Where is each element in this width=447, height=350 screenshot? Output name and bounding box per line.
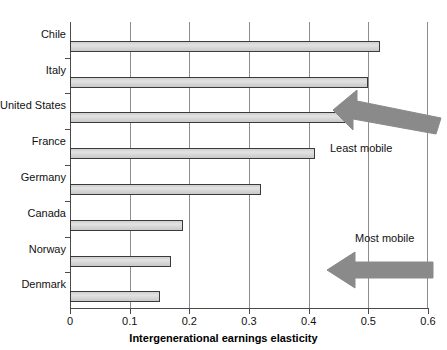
gridline-0.4 <box>309 22 310 308</box>
category-label-italy: Italy <box>0 64 66 76</box>
bar-france <box>70 148 315 159</box>
y-axis-tick <box>65 237 70 238</box>
bar-chile <box>70 41 380 52</box>
bar-norway <box>70 256 171 267</box>
y-axis-tick <box>65 165 70 166</box>
most-mobile-label: Most mobile <box>355 232 414 244</box>
x-axis-tick-label-0.2: 0.2 <box>182 315 197 327</box>
category-label-denmark: Denmark <box>0 278 66 290</box>
x-axis-tick-label-0: 0 <box>67 315 73 327</box>
x-axis-tick-label-0.6: 0.6 <box>420 315 435 327</box>
x-axis-tick-label-0.3: 0.3 <box>241 315 256 327</box>
y-axis-tick <box>65 93 70 94</box>
category-label-chile: Chile <box>0 28 66 40</box>
least-mobile-arrow-up-left-icon <box>331 88 443 136</box>
bar-italy <box>70 77 368 88</box>
y-axis-tick <box>65 58 70 59</box>
bar-chart: Chile Italy United States France Germany… <box>0 0 447 350</box>
category-label-france: France <box>0 135 66 147</box>
x-axis-tick-0.3 <box>249 309 250 314</box>
x-axis-tick-0.6 <box>428 309 429 314</box>
category-label-norway: Norway <box>0 243 66 255</box>
x-axis-title: Intergenerational earnings elasticity <box>0 332 447 344</box>
x-axis-tick-0.1 <box>130 309 131 314</box>
x-axis-tick-0.5 <box>368 309 369 314</box>
bar-canada <box>70 220 183 231</box>
gridline-0.3 <box>249 22 250 308</box>
category-label-canada: Canada <box>0 207 66 219</box>
x-axis-tick-0.2 <box>189 309 190 314</box>
y-axis-tick <box>65 201 70 202</box>
y-axis-tick <box>65 129 70 130</box>
gridline-0.2 <box>189 22 190 308</box>
x-axis-tick-label-0.1: 0.1 <box>122 315 137 327</box>
bar-denmark <box>70 291 160 302</box>
x-axis-tick-0 <box>70 309 71 314</box>
x-axis-tick-label-0.4: 0.4 <box>301 315 316 327</box>
x-axis-tick-label-0.5: 0.5 <box>361 315 376 327</box>
category-label-united-states: United States <box>0 99 66 111</box>
least-mobile-label: Least mobile <box>330 142 392 154</box>
x-axis-tick-0.4 <box>309 309 310 314</box>
category-label-germany: Germany <box>0 171 66 183</box>
most-mobile-arrow-left-icon <box>325 250 435 290</box>
bar-germany <box>70 184 261 195</box>
y-axis-tick <box>65 272 70 273</box>
bar-united-states <box>70 112 350 123</box>
